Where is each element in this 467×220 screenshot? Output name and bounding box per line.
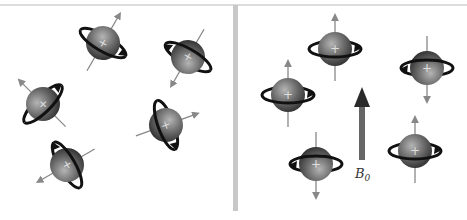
spin-icon bbox=[127, 90, 205, 162]
spin-icon bbox=[389, 119, 442, 183]
spin-icon bbox=[309, 17, 362, 81]
left-panel bbox=[2, 2, 227, 203]
spin-icon bbox=[26, 126, 108, 204]
field-label: B0 bbox=[354, 166, 371, 183]
spin-icon bbox=[149, 16, 227, 98]
spin-icon bbox=[64, 2, 142, 84]
spin-icon bbox=[2, 62, 85, 145]
spin-diagram: + B0 bbox=[0, 0, 467, 220]
panel-divider bbox=[233, 5, 238, 211]
diagram-canvas: + B0 bbox=[0, 0, 467, 220]
field-arrow-icon bbox=[354, 87, 370, 160]
right-panel: B0 bbox=[262, 17, 453, 196]
spin-icon bbox=[400, 36, 453, 100]
spin-icon bbox=[262, 63, 315, 127]
spin-icon bbox=[289, 132, 342, 196]
